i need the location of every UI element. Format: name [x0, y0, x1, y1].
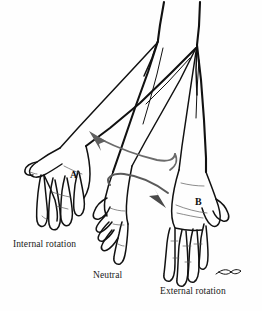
label-external-rotation: External rotation: [160, 286, 226, 297]
rotation-figure: .ink { fill:none; stroke:#111111; stroke…: [0, 0, 262, 311]
panel-letter-a: A: [70, 170, 77, 180]
label-internal-rotation: Internal rotation: [13, 239, 76, 250]
panel-letter-b: B: [195, 197, 202, 207]
label-neutral: Neutral: [93, 270, 122, 281]
line-art-illustration: .ink { fill:none; stroke:#111111; stroke…: [0, 0, 262, 311]
